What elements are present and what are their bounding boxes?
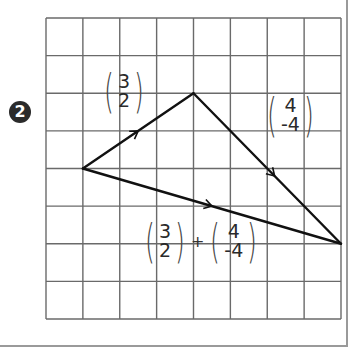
sum-second-y: -4	[224, 241, 243, 260]
column-vector: 3 2	[118, 72, 130, 110]
right-paren: )	[175, 218, 185, 264]
vector-bc-y: -4	[281, 115, 300, 134]
vector-bc-label: ( 4 -4 )	[263, 92, 318, 138]
left-paren: (	[104, 68, 114, 114]
problem-number-badge: 2	[9, 101, 31, 123]
column-vector: 4 -4	[281, 96, 300, 134]
grid	[0, 0, 349, 350]
sum-first-y: 2	[159, 241, 171, 260]
right-paren: )	[134, 68, 144, 114]
vector-sum-label: ( 3 2 ) + ( 4 -4 )	[141, 218, 261, 264]
vector-diagram: 2 ( 3 2 ) ( 4 -4 ) ( 3 2 ) + ( 4 -4 )	[0, 0, 349, 350]
frame-border-right	[346, 0, 348, 346]
right-paren: )	[304, 92, 314, 138]
left-paren: (	[145, 218, 155, 264]
right-paren: )	[247, 218, 257, 264]
column-vector: 4 -4	[224, 222, 243, 260]
left-paren: (	[267, 92, 277, 138]
plus-operator: +	[191, 232, 204, 251]
frame-border-bottom	[0, 345, 348, 347]
left-paren: (	[210, 218, 220, 264]
column-vector: 3 2	[159, 222, 171, 260]
vector-ab-label: ( 3 2 )	[100, 68, 148, 114]
vector-ab-y: 2	[118, 91, 130, 110]
